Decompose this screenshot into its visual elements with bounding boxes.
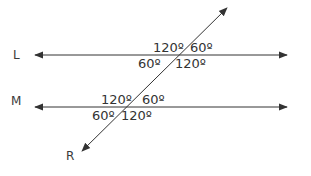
angle-l-top-left: 120º — [153, 40, 184, 55]
angle-l-top-right: 60º — [190, 40, 213, 55]
transversal-r — [82, 8, 227, 151]
line-l-label: L — [13, 48, 20, 62]
transversal-r-label: R — [66, 149, 74, 163]
angle-m-bottom-right: 120º — [121, 108, 152, 123]
angle-l-bottom-right: 120º — [175, 56, 206, 71]
angle-m-top-left: 120º — [101, 92, 132, 107]
angle-m-bottom-left: 60º — [92, 108, 115, 123]
line-m-label: M — [11, 94, 21, 108]
angle-m-top-right: 60º — [142, 92, 165, 107]
angle-l-bottom-left: 60º — [138, 56, 161, 71]
diagram: L M R 120º 60º 60º 120º 120º 60º 60º 120… — [0, 0, 311, 176]
